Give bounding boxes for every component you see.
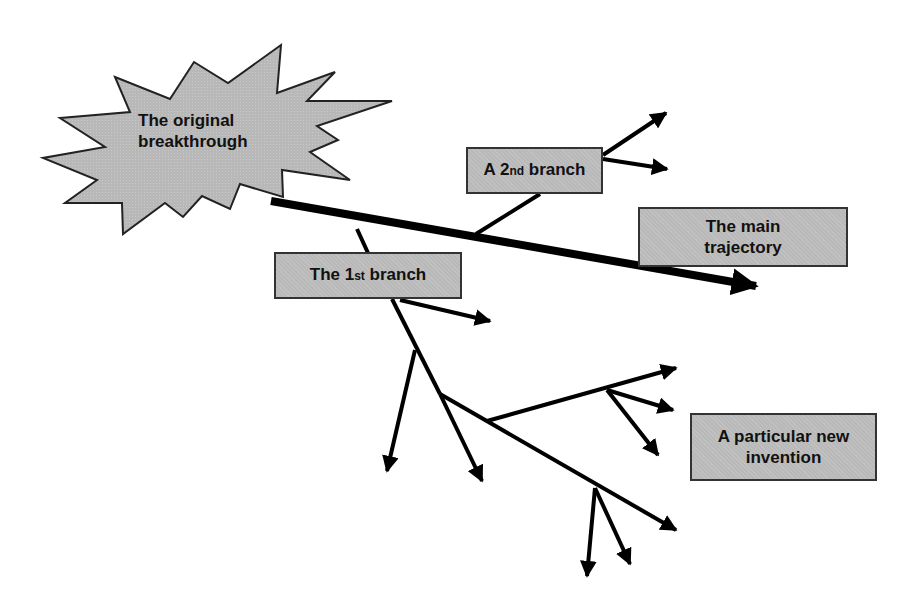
branch1-box: The 1st branch xyxy=(274,252,462,299)
branch1-label: The 1st branch xyxy=(310,264,426,287)
invention-box: A particular new invention xyxy=(690,413,877,481)
main-label-line2: trajectory xyxy=(704,237,781,258)
branch1-suffix: branch xyxy=(365,265,426,284)
branch2-prefix: A 2 xyxy=(484,160,510,179)
main-label-line1: The main xyxy=(706,216,781,237)
origin-label: The original breakthrough xyxy=(138,110,248,152)
branch1-short-arrow xyxy=(400,300,490,321)
lower-subbranch-arrow xyxy=(440,394,676,530)
origin-label-line1: The original xyxy=(138,110,248,131)
branch2-arrow-right xyxy=(603,159,667,169)
branch1-ordinal: st xyxy=(354,269,365,283)
invention-label-line1: A particular new xyxy=(718,426,850,447)
branch2-suffix: branch xyxy=(524,160,585,179)
branch1-stem xyxy=(357,229,368,253)
origin-label-line2: breakthrough xyxy=(138,131,248,152)
branch1-prefix: The 1 xyxy=(310,265,354,284)
branch1-trunk xyxy=(392,299,440,394)
main-trajectory-box: The main trajectory xyxy=(638,207,848,267)
invention-label-line2: invention xyxy=(746,447,822,468)
branch2-ordinal: nd xyxy=(509,164,524,178)
lower-subbranch-split-down xyxy=(587,488,595,576)
branch2-arrow-up xyxy=(603,113,666,155)
diagram-canvas: The original breakthrough A 2nd branch T… xyxy=(0,0,919,616)
branch2-box: A 2nd branch xyxy=(466,147,603,194)
branch2-label: A 2nd branch xyxy=(484,159,586,182)
branch1-left-arrow xyxy=(387,350,415,471)
upper-subbranch-arrow xyxy=(487,368,676,421)
branch2-stem xyxy=(476,194,540,234)
diagram-lines xyxy=(0,0,919,616)
